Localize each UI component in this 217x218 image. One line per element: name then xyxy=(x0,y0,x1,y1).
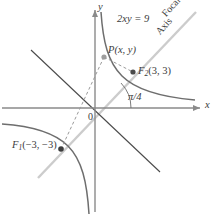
point-marker-p xyxy=(101,54,106,59)
focus-2-label: F2(3, 3) xyxy=(138,66,171,77)
point-marker-f1 xyxy=(58,146,64,152)
focus-1-coords: (−3, −3) xyxy=(22,139,57,150)
focus-2-coords: (3, 3) xyxy=(148,65,171,76)
origin-label: 0 xyxy=(88,112,93,122)
focal-radius-p-f2 xyxy=(104,57,131,71)
angle-label: π/4 xyxy=(128,92,141,103)
point-p-label: P(x, y) xyxy=(108,45,136,56)
hyperbola-branch-upper xyxy=(101,12,195,100)
focal-axis-line xyxy=(38,12,196,178)
x-axis-label: x xyxy=(205,100,210,111)
diagram-svg xyxy=(0,0,217,218)
point-marker-f2 xyxy=(130,69,135,74)
focus-1-label: F1(−3, −3) xyxy=(12,140,57,151)
equation-text: 2xy = 9 xyxy=(117,13,149,24)
figure-canvas: 2xy = 9 P(x, y) F2(3, 3) F1(−3, −3) 0 π/… xyxy=(0,0,217,218)
x-axis-arrow-icon xyxy=(193,105,200,111)
equation-label: 2xy = 9 xyxy=(117,14,149,25)
focal-radius-p-f1 xyxy=(62,57,104,147)
y-axis-label: y xyxy=(98,2,103,13)
